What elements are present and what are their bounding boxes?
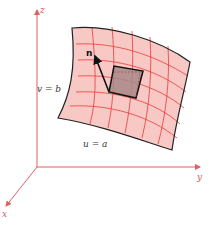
z-axis-label: z	[39, 5, 45, 15]
u-curve-label: u = a	[83, 139, 107, 149]
y-axis-label: y	[196, 172, 203, 182]
normal-label: n	[86, 48, 92, 58]
x-axis	[6, 167, 37, 206]
x-axis-label: x	[2, 209, 7, 219]
surface-diagram: n v = b u = a z y x	[0, 0, 210, 229]
v-curve-label: v = b	[37, 84, 61, 94]
tangent-parallelogram	[109, 66, 143, 98]
